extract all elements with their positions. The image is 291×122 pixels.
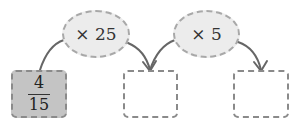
answer-box-2[interactable] xyxy=(123,70,178,118)
connector-line-1 xyxy=(40,40,64,70)
operator-ellipse-1: × 25 xyxy=(62,10,130,58)
value-box-1: 4 15 xyxy=(11,70,67,118)
operator-label: × 5 xyxy=(191,24,221,44)
answer-box-3[interactable] xyxy=(233,70,289,118)
fraction: 4 15 xyxy=(28,75,50,114)
denominator: 15 xyxy=(29,97,49,114)
operator-label: × 25 xyxy=(75,24,116,44)
numerator: 4 xyxy=(34,75,44,92)
operator-ellipse-2: × 5 xyxy=(173,10,240,58)
